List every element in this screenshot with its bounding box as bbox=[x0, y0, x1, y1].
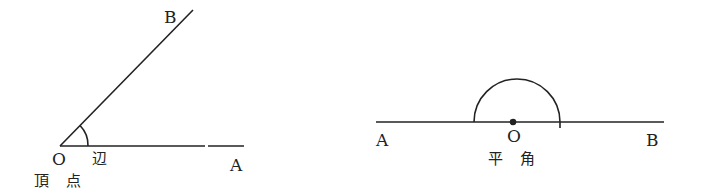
label-b: B bbox=[164, 9, 177, 26]
label-b-2: B bbox=[646, 132, 659, 149]
label-vertex: 頂 点 bbox=[34, 174, 87, 189]
label-o: O bbox=[52, 151, 66, 168]
label-a: A bbox=[230, 157, 242, 174]
diagram-canvas: B O 辺 A 頂 点 A O B 平 角 bbox=[0, 0, 701, 194]
straight-angle-arc bbox=[474, 79, 560, 128]
label-straight-angle: 平 角 bbox=[488, 152, 541, 167]
label-o-2: O bbox=[507, 128, 521, 145]
label-a-2: A bbox=[376, 132, 388, 149]
angle-arc bbox=[80, 126, 88, 147]
label-side: 辺 bbox=[92, 152, 113, 167]
point-o-dot bbox=[510, 119, 517, 126]
